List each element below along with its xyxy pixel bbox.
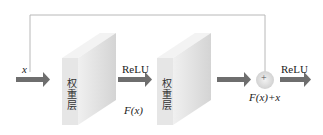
weight-layer-1-label: 权重层 [63,78,78,111]
fx-label: F(x) [124,104,143,116]
diagram-canvas [0,0,323,135]
plus-icon: + [261,72,267,83]
input-label: x [22,63,27,75]
weight-layer-2-label: 权重层 [158,78,173,111]
sum-label: F(x)+x [249,91,280,103]
relu-label-1: ReLU [122,63,149,75]
to-sum-arrow [217,72,251,87]
residual-block-diagram: x 权重层 ReLU F(x) 权重层 + F(x)+x ReLU [0,0,323,135]
relu-label-2: ReLU [281,63,308,75]
